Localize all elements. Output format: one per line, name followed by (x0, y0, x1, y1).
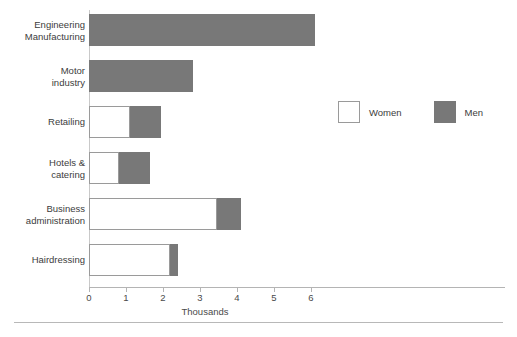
bar-segment-men[interactable] (217, 198, 241, 230)
bar-segment-women[interactable] (89, 198, 217, 230)
stacked-bar[interactable] (89, 14, 315, 46)
stacked-bar[interactable] (89, 152, 150, 184)
category-label: Business administration (0, 203, 85, 226)
x-tick-label: 5 (262, 292, 286, 303)
stacked-bar[interactable] (89, 60, 193, 92)
bar-row: Motor industry (0, 60, 517, 92)
x-tick-label: 0 (77, 292, 101, 303)
legend-swatch-women-icon (338, 101, 360, 123)
bar-segment-men[interactable] (170, 244, 177, 276)
category-label: Hairdressing (0, 254, 85, 266)
stacked-bar[interactable] (89, 198, 241, 230)
bar-row: Hotels & catering (0, 152, 517, 184)
bar-segment-women[interactable] (89, 244, 170, 276)
x-tick-label: 4 (225, 292, 249, 303)
x-tick-label: 2 (151, 292, 175, 303)
bar-segment-men[interactable] (119, 152, 150, 184)
legend-swatch-men-icon (434, 101, 456, 123)
plot-area: 0123456 Engineering ManufacturingMotor i… (0, 0, 517, 337)
legend-label-women: Women (369, 107, 402, 118)
x-tick-label: 3 (188, 292, 212, 303)
bar-row: Engineering Manufacturing (0, 14, 517, 46)
bar-segment-women[interactable] (89, 152, 119, 184)
chart-legend: Women Men (338, 101, 483, 123)
stacked-bar[interactable] (89, 244, 178, 276)
legend-item-women: Women (338, 101, 402, 123)
category-label: Motor industry (0, 65, 85, 88)
x-tick-label: 6 (299, 292, 323, 303)
bar-segment-men[interactable] (89, 14, 315, 46)
chart-figure: 0123456 Engineering ManufacturingMotor i… (0, 0, 517, 337)
bar-segment-men[interactable] (89, 60, 193, 92)
bottom-divider (14, 322, 503, 323)
legend-label-men: Men (465, 107, 483, 118)
x-axis-line (89, 287, 505, 288)
x-tick-label: 1 (114, 292, 138, 303)
bar-row: Business administration (0, 198, 517, 230)
bar-row: Hairdressing (0, 244, 517, 276)
category-label: Retailing (0, 116, 85, 128)
bar-segment-women[interactable] (89, 106, 130, 138)
category-label: Engineering Manufacturing (0, 19, 85, 42)
bar-segment-men[interactable] (130, 106, 161, 138)
stacked-bar[interactable] (89, 106, 161, 138)
x-axis-title: Thousands (89, 306, 321, 317)
legend-item-men: Men (434, 101, 483, 123)
category-label: Hotels & catering (0, 157, 85, 180)
